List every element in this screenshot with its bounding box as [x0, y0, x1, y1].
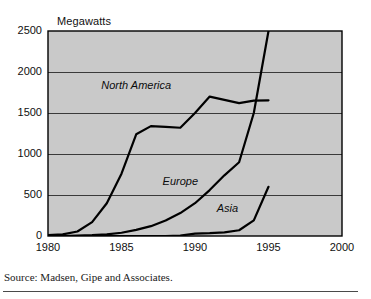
plot-background	[48, 31, 342, 236]
chart-figure: Megawatts 050010001500200025001980198519…	[0, 0, 371, 299]
y-axis-tick-label: 500	[2, 188, 42, 200]
bottom-divider	[3, 291, 358, 292]
y-axis-tick-label: 1500	[2, 106, 42, 118]
y-axis-tick-label: 2500	[2, 24, 42, 36]
series-label-asia: Asia	[217, 202, 238, 214]
x-axis-tick-label: 1990	[172, 241, 218, 253]
y-axis-tick-label: 2000	[2, 65, 42, 77]
x-axis-tick-label: 1995	[246, 241, 292, 253]
y-axis-tick-label: 0	[2, 229, 42, 241]
series-label-north-america: North America	[101, 79, 171, 91]
y-axis-tick-label: 1000	[2, 147, 42, 159]
source-note: Source: Madsen, Gipe and Associates.	[4, 271, 173, 283]
series-label-europe: Europe	[163, 175, 198, 187]
x-axis-tick-label: 1985	[99, 241, 145, 253]
x-axis-tick-label: 2000	[319, 241, 365, 253]
chart-plot-area	[0, 0, 371, 299]
x-axis-tick-label: 1980	[25, 241, 71, 253]
